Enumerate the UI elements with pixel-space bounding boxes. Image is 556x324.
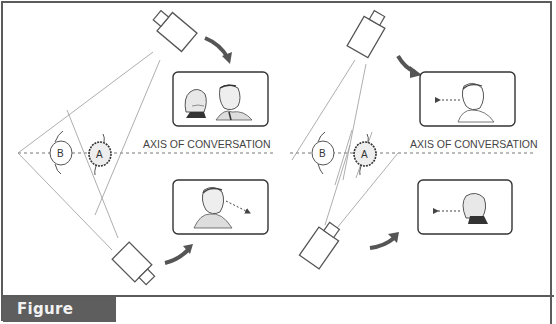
right-panel: AXIS OF CONVERSATION B <box>290 8 538 269</box>
person-a-icon: A <box>354 134 376 175</box>
bottom-arrow-icon <box>165 250 188 263</box>
left-bottom-frame <box>173 180 268 234</box>
top-camera-icon <box>347 8 390 58</box>
svg-text:B: B <box>319 148 326 159</box>
person-b-icon: B <box>50 131 72 174</box>
bottom-camera-icon <box>299 219 344 269</box>
frame-right-edge <box>550 295 552 324</box>
left-axis-label: AXIS OF CONVERSATION <box>143 138 271 150</box>
left-top-frame <box>173 72 268 126</box>
bottom-camera-icon <box>112 242 159 289</box>
person-a-icon: A <box>89 134 111 175</box>
left-panel: AXIS OF CONVERSATION B A <box>18 6 276 289</box>
top-camera-icon <box>149 6 197 51</box>
right-axis-label: AXIS OF CONVERSATION <box>410 138 538 150</box>
right-top-frame <box>420 72 515 126</box>
figure-caption: Figure 4.12 <box>3 297 116 322</box>
svg-text:A: A <box>96 149 103 160</box>
axis-of-conversation-diagram: AXIS OF CONVERSATION B A <box>0 0 556 296</box>
right-bottom-frame <box>418 180 512 234</box>
svg-text:A: A <box>361 149 368 160</box>
bottom-arrow-icon <box>370 238 394 248</box>
person-b-icon: B <box>312 132 334 174</box>
svg-text:B: B <box>57 148 64 159</box>
